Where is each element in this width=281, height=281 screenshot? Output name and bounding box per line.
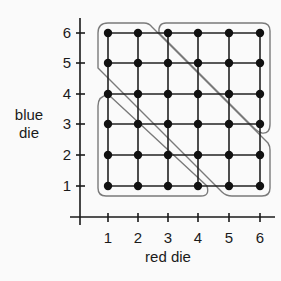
outcome-point (104, 151, 112, 159)
outcome-point (104, 182, 112, 190)
region-sum-at-least-9 (159, 23, 270, 133)
y-tick-label: 2 (63, 146, 71, 163)
outcome-point (134, 151, 142, 159)
outcome-point (134, 182, 142, 190)
outcome-point (164, 29, 172, 37)
grid-lines (104, 29, 264, 190)
x-tick-label: 5 (225, 229, 233, 246)
x-tick-label: 1 (104, 229, 112, 246)
outcome-point (194, 90, 202, 98)
x-tick-label: 4 (194, 229, 202, 246)
outcome-point (194, 59, 202, 67)
outcome-point (134, 59, 142, 67)
outcome-point (164, 120, 172, 128)
outcome-point (194, 120, 202, 128)
y-tick-label: 5 (63, 54, 71, 71)
y-tick-label: 3 (63, 115, 71, 132)
x-tick-label: 6 (256, 229, 264, 246)
outcome-point (256, 59, 264, 67)
outcome-point (194, 151, 202, 159)
x-axis-title: red die (145, 248, 191, 265)
outcome-point (256, 90, 264, 98)
outcome-point (225, 90, 233, 98)
outcome-point (256, 182, 264, 190)
outcome-point (164, 59, 172, 67)
x-tick-label: 2 (134, 229, 142, 246)
dice-outcome-diagram: 1 2 3 4 5 6 1 2 3 4 5 6 red die blue die (0, 0, 281, 281)
outcome-points (104, 29, 264, 190)
outcome-point (256, 151, 264, 159)
y-tick-label: 1 (63, 177, 71, 194)
x-tick-labels: 1 2 3 4 5 6 (104, 229, 264, 246)
y-axis-title-line2: die (19, 124, 39, 141)
outcome-point (164, 90, 172, 98)
outcome-point (104, 29, 112, 37)
outcome-point (225, 151, 233, 159)
outcome-point (104, 59, 112, 67)
outcome-point (134, 29, 142, 37)
region-sum-at-most-5 (98, 95, 208, 196)
y-tick-label: 4 (63, 85, 71, 102)
outcome-point (164, 182, 172, 190)
y-axis-title-line1: blue (15, 106, 43, 123)
outcome-point (256, 120, 264, 128)
region-outlines (98, 23, 270, 196)
outcome-point (256, 29, 264, 37)
outcome-point (134, 90, 142, 98)
y-tick-labels: 1 2 3 4 5 6 (63, 24, 71, 194)
outcome-point (194, 182, 202, 190)
x-tick-label: 3 (164, 229, 172, 246)
outcome-point (225, 59, 233, 67)
outcome-point (164, 151, 172, 159)
y-tick-label: 6 (63, 24, 71, 41)
outcome-point (225, 120, 233, 128)
outcome-point (104, 120, 112, 128)
outcome-point (134, 120, 142, 128)
outcome-point (225, 29, 233, 37)
outcome-point (194, 29, 202, 37)
outcome-point (225, 182, 233, 190)
outcome-point (104, 90, 112, 98)
